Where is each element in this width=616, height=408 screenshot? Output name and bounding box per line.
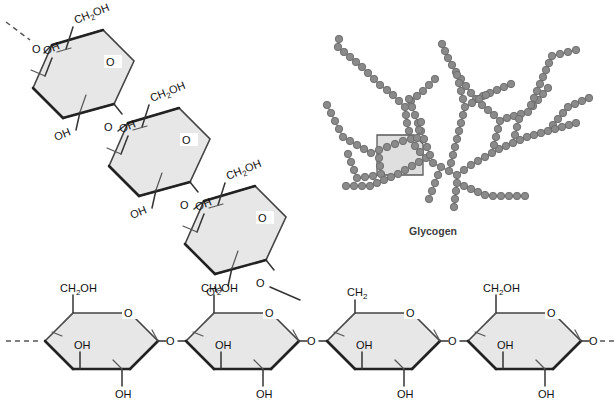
- c2-label: OH: [74, 339, 91, 351]
- glycogen-glucose-node: [323, 101, 330, 108]
- glycogen-glucose-node: [353, 174, 360, 181]
- c3-label: OH: [52, 126, 72, 143]
- glycogen-glucose-node: [578, 97, 585, 104]
- glycogen-glucose-node: [554, 115, 561, 122]
- glycogen-glucose-node: [346, 137, 353, 144]
- glycogen-glucose-node: [391, 140, 398, 147]
- glycogen-glucose-node: [360, 145, 367, 152]
- glycogen-glucose-node: [511, 131, 518, 138]
- ring-hexagon: [45, 313, 158, 369]
- glycogen-glucose-node: [370, 75, 377, 82]
- svg-text:CH2OH: CH2OH: [148, 79, 188, 107]
- ring-oxygen-label: O: [547, 307, 556, 319]
- glycogen-glucose-node: [441, 47, 448, 54]
- glycogen-glucose-node: [551, 125, 558, 132]
- glycogen-glucose-node: [344, 150, 351, 157]
- branch-glyco-bond-1a: [114, 104, 122, 114]
- glycogen-glucose-node: [373, 179, 380, 186]
- branch-ring-1: O CH2OH OH OH: [31, 1, 134, 143]
- glycogen-glucose-node: [572, 46, 579, 53]
- c6-ch: CH: [148, 87, 167, 104]
- c6-ch: CH: [60, 282, 76, 294]
- glycogen-glucose-node: [413, 134, 420, 141]
- glycogen-glucose-node: [445, 167, 452, 174]
- glycogen-glucose-node: [527, 101, 534, 108]
- glycogen-glucose-node: [509, 139, 516, 146]
- glycogen-glucose-node: [502, 142, 509, 149]
- glycogen-glucose-node: [474, 157, 481, 164]
- c6-ch: CH: [347, 286, 363, 298]
- c6-label: CH2OH: [483, 282, 520, 297]
- glycogen-glucose-node: [564, 48, 571, 55]
- glycogen-glucose-node: [484, 106, 491, 113]
- main-ring-4: O CH2OH OH OH: [468, 282, 581, 400]
- ring-oxygen-label: O: [106, 56, 115, 68]
- glycogen-glucose-node: [500, 83, 507, 90]
- main-ring-3-branch-point: O CH2 OH OH: [327, 286, 440, 400]
- glycogen-glucose-node: [399, 137, 406, 144]
- glycogen-glucose-node: [455, 127, 462, 134]
- c6-oh: OH: [221, 282, 238, 294]
- glycogen-glucose-node: [367, 149, 374, 156]
- glycogen-glucose-node: [521, 192, 528, 199]
- glycogen-glucose-node: [411, 142, 418, 149]
- ring-hexagon: [468, 313, 581, 369]
- glycogen-glucose-node: [431, 179, 438, 186]
- glycogen-glucose-node: [383, 143, 390, 150]
- main-ring-2: O CH2OH OH OH: [186, 282, 299, 400]
- glycogen-glucose-node: [536, 80, 543, 87]
- glycogen-glucose-node: [403, 119, 410, 126]
- c2-label: OH: [356, 339, 373, 351]
- glycogen-glucose-node: [331, 117, 338, 124]
- glycogen-glucose-node: [346, 53, 353, 60]
- glycogen-glucose-node: [361, 173, 368, 180]
- svg-text:CH2OH: CH2OH: [224, 157, 264, 185]
- glycogen-glucose-node: [453, 71, 460, 78]
- branch-link-o-1: O: [104, 121, 113, 133]
- glycogen-glucose-node: [447, 159, 454, 166]
- glycogen-glucose-node: [350, 166, 357, 173]
- glycogen-glucose-node: [559, 109, 566, 116]
- glycogen-glucose-node: [383, 86, 390, 93]
- c2-label: OH: [497, 339, 514, 351]
- glycogen-glucose-node: [402, 111, 409, 118]
- glycogen-glucose-node: [481, 191, 488, 198]
- c3-label: OH: [115, 388, 132, 400]
- glycogen-glucose-node: [451, 143, 458, 150]
- c6-oh: OH: [167, 79, 187, 96]
- glycogen-glucose-node: [457, 87, 464, 94]
- glycogen-glucose-node: [347, 158, 354, 165]
- branch-to-main-bond-a: [266, 260, 274, 270]
- glycogen-glucose-node: [585, 94, 592, 101]
- glycogen-glucose-node: [438, 40, 445, 47]
- svg-text:OH: OH: [128, 204, 148, 221]
- glycogen-glucose-node: [376, 162, 383, 169]
- glycogen-glucose-nodes: [323, 35, 592, 210]
- branch-ring-2: O CH2OH OH OH: [107, 79, 210, 221]
- glycogen-glucose-node: [426, 151, 433, 158]
- glycogen-glucose-node: [449, 151, 456, 158]
- ring-oxygen-label: O: [258, 212, 267, 224]
- c3-label: OH: [256, 388, 273, 400]
- glycogen-glucose-node: [503, 114, 510, 121]
- glycogen-glucose-node: [453, 135, 460, 142]
- ring-hexagon: [186, 313, 299, 369]
- glycogen-glucose-node: [408, 103, 415, 110]
- c2-label: OH: [215, 339, 232, 351]
- glycogen-glucose-node: [395, 97, 402, 104]
- glycogen-glucose-node: [513, 192, 520, 199]
- c6-label-branch: CH2: [347, 286, 368, 301]
- glycogen-glucose-node: [389, 91, 396, 98]
- ring-oxygen-label: O: [265, 307, 274, 319]
- glycogen-glucose-node: [482, 91, 489, 98]
- glycogen-glucose-node: [524, 108, 531, 115]
- glycogen-glucose-node: [425, 81, 432, 88]
- ring-hexagon: [327, 313, 440, 369]
- glycogen-caption: Glycogen: [409, 225, 457, 237]
- glycogen-glucose-node: [493, 86, 500, 93]
- glycogen-glucose-node: [475, 95, 482, 102]
- glycogen-glucose-node: [467, 161, 474, 168]
- glycogen-glucose-node: [448, 61, 455, 68]
- glycogen-glucose-node: [468, 99, 475, 106]
- glycogen-glucose-node: [497, 192, 504, 199]
